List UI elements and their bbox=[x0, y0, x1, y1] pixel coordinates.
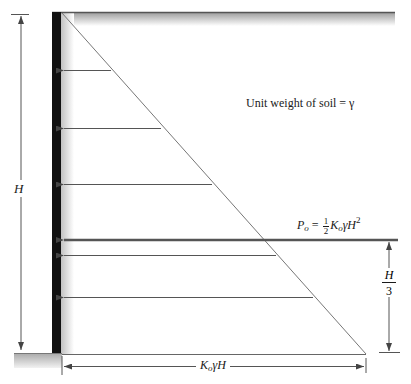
height-label: H bbox=[13, 180, 24, 197]
retaining-wall bbox=[52, 12, 61, 355]
unit-weight-label: Unit weight of soil = γ bbox=[246, 97, 354, 109]
base-gamma-h-term: γH bbox=[213, 358, 226, 372]
coefficient-symbol: K bbox=[330, 218, 338, 232]
soil-surface-shading bbox=[60, 12, 395, 354]
lever-arm-denominator: 3 bbox=[382, 283, 396, 297]
gamma-h-term: γH bbox=[343, 218, 356, 232]
height-label-text: H bbox=[14, 181, 23, 196]
equals-sign: = bbox=[309, 218, 322, 232]
unit-weight-text: Unit weight of soil = γ bbox=[246, 96, 354, 110]
base-ground bbox=[14, 353, 62, 368]
lever-arm-numerator: H bbox=[382, 268, 396, 283]
lever-arm-label: H 3 bbox=[382, 268, 396, 297]
base-pressure-label: KoγH bbox=[196, 359, 230, 373]
resultant-force-label: Po = 12KoγH2 bbox=[297, 216, 361, 236]
diagram-canvas bbox=[0, 0, 411, 384]
pressure-triangle-hypotenuse bbox=[62, 13, 366, 354]
half-fraction: 12 bbox=[323, 217, 330, 236]
exponent: 2 bbox=[356, 215, 361, 225]
base-coefficient-symbol: K bbox=[200, 358, 208, 372]
